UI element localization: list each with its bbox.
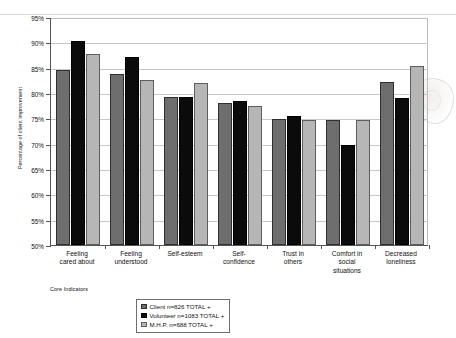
bar <box>341 145 355 245</box>
x-axis-category-label: Feelingcared about <box>50 250 104 267</box>
y-axis-tick-label: 95% <box>31 15 44 22</box>
legend-item: Volunteer n=1083 TOTAL + <box>141 311 224 320</box>
bar <box>164 97 178 245</box>
x-axis-category-line: confidence <box>212 258 266 266</box>
y-axis-tick-label: 90% <box>31 40 44 47</box>
y-axis-title: Percentage of client improvement <box>17 63 23 193</box>
bar <box>140 80 154 245</box>
bar <box>86 54 100 245</box>
x-axis-category-label: Comfort insocialsituations <box>320 250 374 275</box>
y-axis-tick-label: 80% <box>31 91 44 98</box>
y-axis-tick-label: 85% <box>31 65 44 72</box>
bar <box>272 119 286 245</box>
x-axis-category-line: Trust in <box>266 250 320 258</box>
chart-legend: Client n=826 TOTAL +Volunteer n=1083 TOT… <box>136 299 230 333</box>
x-axis-tick <box>267 245 268 249</box>
y-axis-tick-label: 75% <box>31 116 44 123</box>
bar-group <box>213 18 267 245</box>
y-axis-tick <box>46 246 51 247</box>
bar <box>179 97 193 245</box>
bar-group <box>51 18 105 245</box>
x-axis-category-label: Feelingunderstood <box>104 250 158 267</box>
legend-label: M.H.P. n=688 TOTAL + <box>150 321 213 328</box>
x-axis-tick <box>213 245 214 249</box>
bar <box>287 116 301 245</box>
y-axis-tick-label: 50% <box>31 243 44 250</box>
bar-group <box>375 18 429 245</box>
x-axis-category-line: social <box>320 258 374 266</box>
bar <box>110 74 124 245</box>
bar <box>248 106 262 245</box>
bar-group <box>267 18 321 245</box>
legend-color-swatch <box>141 322 147 328</box>
bar-chart: Percentage of client improvement 95%90%8… <box>0 0 456 338</box>
x-axis-category-line: others <box>266 258 320 266</box>
x-axis-category-line: Self-esteem <box>158 250 212 258</box>
x-axis-category-label: Self-esteem <box>158 250 212 258</box>
legend-label: Volunteer n=1083 TOTAL + <box>150 312 225 319</box>
legend-label: Client n=826 TOTAL + <box>150 303 211 310</box>
y-axis-tick-label: 65% <box>31 167 44 174</box>
bar <box>233 101 247 245</box>
bar <box>56 70 70 245</box>
bar <box>125 57 139 245</box>
legend-color-swatch <box>141 304 147 310</box>
bar <box>71 41 85 245</box>
x-axis-title: Core Indicators <box>50 286 88 292</box>
bar-group <box>321 18 375 245</box>
x-axis-category-label: Self-confidence <box>212 250 266 267</box>
y-axis-tick-label: 60% <box>31 192 44 199</box>
bar <box>356 120 370 245</box>
x-axis-category-line: loneliness <box>374 258 428 266</box>
y-axis-tick-label: 55% <box>31 217 44 224</box>
bar <box>395 98 409 245</box>
legend-color-swatch <box>141 313 147 319</box>
x-axis-category-line: Feeling <box>50 250 104 258</box>
legend-item: M.H.P. n=688 TOTAL + <box>141 320 224 329</box>
x-axis-category-line: Decreased <box>374 250 428 258</box>
legend-item: Client n=826 TOTAL + <box>141 302 224 311</box>
bar <box>410 66 424 245</box>
bar <box>302 120 316 245</box>
bar <box>194 83 208 245</box>
bar <box>326 120 340 245</box>
x-axis-category-label: Decreasedloneliness <box>374 250 428 267</box>
x-axis-category-label: Trust inothers <box>266 250 320 267</box>
y-axis-tick-label: 70% <box>31 141 44 148</box>
plot-area: 95%90%85%80%75%70%65%60%55%50% <box>50 18 428 246</box>
x-axis-tick <box>159 245 160 249</box>
x-axis-category-line: cared about <box>50 258 104 266</box>
x-axis-category-line: understood <box>104 258 158 266</box>
x-axis-tick <box>105 245 106 249</box>
bar-group <box>105 18 159 245</box>
x-axis-tick <box>321 245 322 249</box>
x-axis-tick <box>429 245 430 249</box>
bar <box>218 103 232 245</box>
x-axis-category-line: Feeling <box>104 250 158 258</box>
x-axis-category-line: Self- <box>212 250 266 258</box>
x-axis-category-line: Comfort in <box>320 250 374 258</box>
x-axis-tick <box>375 245 376 249</box>
bar-group <box>159 18 213 245</box>
bar <box>380 82 394 245</box>
x-axis-category-line: situations <box>320 267 374 275</box>
